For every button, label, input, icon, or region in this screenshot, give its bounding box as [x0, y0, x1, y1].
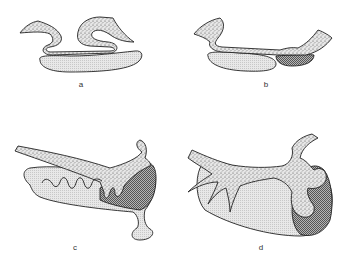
panel-label-c: c	[73, 243, 77, 252]
panel-a-folded-tissue	[20, 17, 134, 55]
panel-b-tissue-layer	[194, 18, 332, 55]
panel-label-d: d	[259, 243, 263, 252]
panel-d	[188, 134, 332, 236]
panel-label-a: a	[79, 80, 83, 89]
panel-b-dark-body	[276, 55, 314, 66]
panel-b-light-body	[208, 52, 276, 71]
panel-a	[20, 17, 142, 72]
panel-b	[194, 18, 332, 71]
diagram-figure	[0, 0, 351, 263]
panel-label-b: b	[264, 80, 268, 89]
panel-c	[15, 140, 156, 240]
